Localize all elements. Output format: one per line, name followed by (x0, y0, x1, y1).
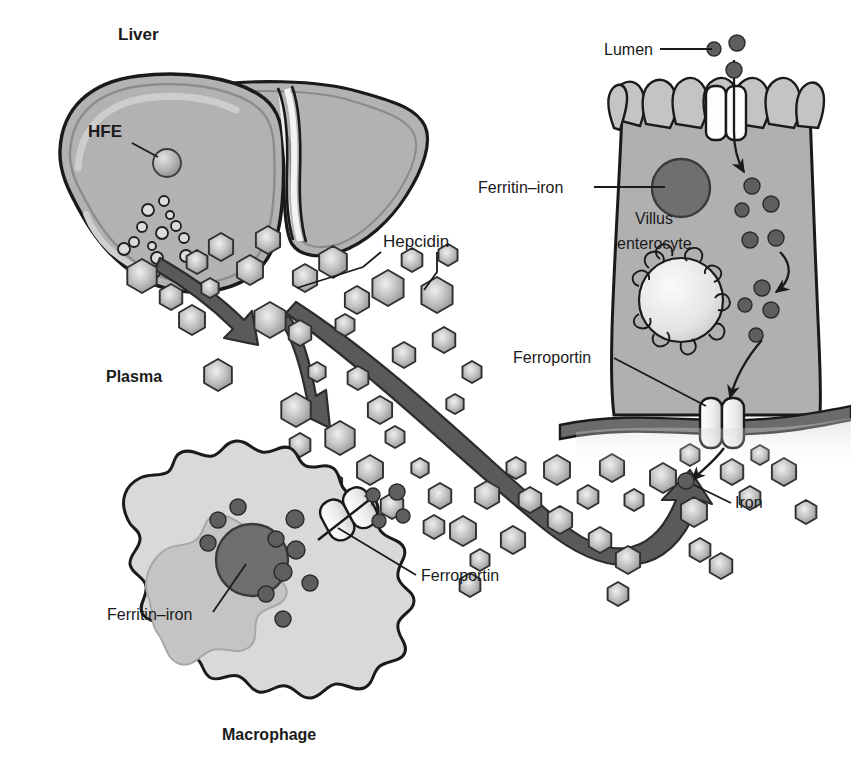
hepcidin-hexagon (475, 481, 499, 509)
enterocyte-ferritin-iron-core (652, 159, 710, 217)
hepcidin-hexagon (293, 264, 317, 292)
hfe-protein-ball (153, 149, 181, 177)
hepcidin-hexagon (281, 393, 310, 427)
enterocyte-iron-dot (768, 230, 784, 246)
enterocyte-iron-dot (763, 196, 779, 212)
hepcidin-hexagon (385, 426, 404, 448)
apical-iron-transporter-right (726, 86, 746, 140)
hepcidin-hexagon (450, 516, 476, 546)
hepcidin-hexagon (204, 359, 232, 391)
label-ferritin-iron-macrophage: Ferritin–iron (107, 606, 192, 623)
macrophage-iron-dot (302, 575, 318, 591)
hepcidin-precursor-particle (142, 204, 154, 216)
macrophage-iron-dot (230, 499, 246, 515)
hepcidin-hexagon (254, 302, 285, 338)
macrophage-iron-dot (258, 586, 274, 602)
hepcidin-hexagon (179, 305, 205, 335)
hepcidin-hexagon (325, 421, 354, 455)
macrophage-iron-dot (286, 510, 304, 528)
hepcidin-hexagon (127, 259, 156, 293)
hepcidin-hexagon (393, 342, 416, 368)
hepcidin-hexagon (411, 458, 428, 478)
enterocyte-iron-dot (754, 280, 770, 296)
hepcidin-precursor-particle (159, 196, 169, 206)
hepcidin-hexagon (201, 278, 218, 298)
apical-iron-transporter-left (706, 86, 726, 140)
hepcidin-hexagon (345, 286, 369, 314)
exported-iron-dot (678, 473, 694, 489)
label-iron: Iron (735, 494, 763, 511)
hepcidin-hexagon (187, 250, 208, 274)
label-enterocyte: enterocyte (617, 235, 692, 252)
label-macrophage: Macrophage (222, 726, 316, 743)
label-liver: Liver (118, 25, 159, 44)
label-ferroportin-enterocyte: Ferroportin (513, 349, 591, 366)
hepcidin-hexagon (710, 553, 733, 579)
hepcidin-precursor-particle (137, 222, 147, 232)
enterocyte-iron-dot (763, 302, 779, 318)
hepcidin-hexagon (796, 500, 817, 524)
macrophage-iron-dot (275, 611, 291, 627)
hepcidin-hexagon (357, 455, 383, 485)
lumen-iron-dot (726, 62, 742, 78)
hepcidin-hexagon (690, 538, 711, 562)
hepcidin-hexagon (578, 485, 599, 509)
hepcidin-hexagon (433, 327, 456, 353)
label-villus: Villus (635, 210, 673, 227)
label-ferritin-iron-enterocyte: Ferritin–iron (478, 179, 563, 196)
enterocyte-body (612, 112, 821, 415)
hepcidin-precursor-particle (129, 237, 139, 247)
hepcidin-hexagon (462, 361, 481, 383)
hepcidin-hexagon (446, 394, 463, 414)
hepcidin-hexagon (372, 270, 403, 306)
macrophage-iron-dot (287, 541, 305, 559)
hepcidin-hexagon (209, 233, 233, 261)
hepcidin-precursor-particle (118, 243, 130, 255)
iron-metabolism-diagram: Liver HFE Plasma Hepcidin Macrophage Fer… (0, 0, 851, 769)
hepcidin-hexagon (335, 314, 354, 336)
hepcidin-hexagon (681, 497, 707, 527)
label-hfe: HFE (88, 122, 122, 141)
hepcidin-hexagon (424, 515, 445, 539)
hepcidin-hexagon (506, 457, 525, 479)
exported-iron-dot (372, 514, 386, 528)
hepcidin-precursor-particle (179, 233, 189, 243)
exported-iron-dot (396, 509, 410, 523)
macrophage-iron-dot (210, 512, 226, 528)
hepcidin-hexagon (519, 487, 542, 513)
label-hepcidin: Hepcidin (383, 232, 449, 251)
hepcidin-hexagon (421, 277, 452, 313)
hepcidin-precursor-particle (148, 242, 156, 250)
label-lumen: Lumen (604, 41, 653, 58)
hepcidin-hexagon (256, 226, 280, 254)
hepcidin-hexagon (589, 527, 612, 553)
lumen-iron-dot (729, 35, 745, 51)
label-plasma: Plasma (106, 368, 162, 385)
enterocyte-exported-iron-group (678, 473, 694, 489)
hepcidin-hexagon (402, 248, 423, 272)
hepcidin-precursor-particle (156, 227, 168, 239)
enterocyte-iron-dot (749, 328, 763, 342)
macrophage-iron-dot (200, 535, 216, 551)
label-ferroportin-macrophage: Ferroportin (421, 567, 499, 584)
hepcidin-hexagon (544, 455, 570, 485)
hepcidin-hexagon (429, 483, 452, 509)
diagram-canvas: Liver HFE Plasma Hepcidin Macrophage Fer… (0, 0, 851, 769)
hepcidin-hexagon (608, 582, 629, 606)
hepcidin-hexagon (289, 320, 312, 346)
hepcidin-hexagon (501, 526, 525, 554)
enterocyte-vesicle (639, 258, 723, 342)
enterocyte-iron-dot (744, 178, 760, 194)
enterocyte-iron-dot (742, 232, 758, 248)
hepcidin-precursor-particle (166, 211, 174, 219)
hepcidin-hexagon (237, 255, 263, 285)
hepcidin-precursor-particle (171, 221, 181, 231)
hepcidin-hexagon (368, 396, 392, 424)
macrophage-iron-dot (268, 531, 284, 547)
hepcidin-hexagon (616, 546, 640, 574)
exported-iron-dot (389, 484, 405, 500)
macrophage-iron-dot (274, 563, 292, 581)
hepcidin-hexagon (624, 489, 643, 511)
enterocyte-iron-dot (738, 298, 752, 312)
hepcidin-hexagon (348, 366, 369, 390)
